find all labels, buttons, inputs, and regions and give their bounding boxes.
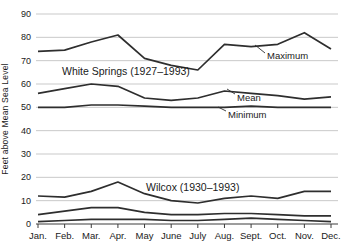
y-tick-label: 60 xyxy=(21,79,31,89)
x-tick-label: Sept. xyxy=(240,230,262,241)
y-tick-label: 50 xyxy=(21,102,31,112)
y-tick-label: 80 xyxy=(21,32,31,42)
hydrograph-figure: 0102030405060708090Feet above Mean Sea L… xyxy=(0,0,341,244)
x-tick-label: June xyxy=(161,230,182,241)
x-tick-label: Nov. xyxy=(295,230,314,241)
y-tick-label: 30 xyxy=(21,149,31,159)
y-tick-label: 10 xyxy=(21,196,31,206)
y-tick-label: 40 xyxy=(21,126,31,136)
callout-label-minimum: Minimum xyxy=(228,109,267,120)
x-tick-label: Aug. xyxy=(215,230,235,241)
y-tick-label: 0 xyxy=(26,219,31,229)
x-tick-label: Feb. xyxy=(55,230,74,241)
y-tick-label: 70 xyxy=(21,56,31,66)
x-tick-label: Oct. xyxy=(269,230,286,241)
callout-label-mean: Mean xyxy=(237,92,261,103)
series-line-wilcox-minimum xyxy=(38,218,331,222)
x-tick-label: July xyxy=(189,230,206,241)
y-tick-label: 90 xyxy=(21,9,31,19)
x-tick-label: Jan. xyxy=(29,230,47,241)
series-line-wilcox-mean xyxy=(38,208,331,216)
series-line-white-springs-mean xyxy=(38,84,331,100)
x-tick-label: May xyxy=(136,230,154,241)
hydrograph-chart: 0102030405060708090Feet above Mean Sea L… xyxy=(0,0,341,244)
station-label-wilcox: Wilcox (1930–1993) xyxy=(146,181,239,193)
x-tick-label: Apr. xyxy=(109,230,126,241)
y-axis-title: Feet above Mean Sea Level xyxy=(0,63,10,174)
y-tick-label: 20 xyxy=(21,172,31,182)
x-tick-label: Dec. xyxy=(321,230,341,241)
station-label-white-springs: White Springs (1927–1993) xyxy=(62,65,190,77)
x-tick-label: Mar. xyxy=(82,230,100,241)
callout-label-maximum: Maximum xyxy=(267,50,308,61)
